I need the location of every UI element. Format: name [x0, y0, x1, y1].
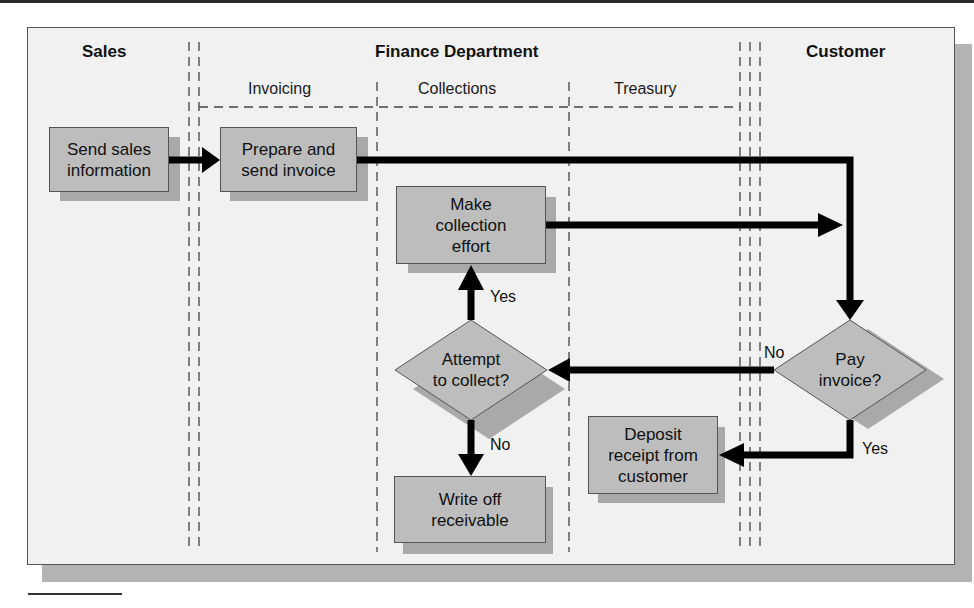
edge-label-pay-no: No — [764, 344, 784, 362]
footer-rule — [28, 593, 122, 595]
flow-graphics — [0, 0, 974, 608]
edge-label-pay-yes: Yes — [862, 440, 888, 458]
arrowhead — [458, 454, 484, 476]
decision-label-pay-invoice: Pay invoice? — [790, 345, 910, 395]
arrowhead — [548, 358, 570, 382]
edge-label-attempt-no: No — [490, 436, 510, 454]
arrowhead — [818, 213, 843, 237]
edge-label-attempt-yes: Yes — [490, 288, 516, 306]
arrowhead — [719, 443, 744, 467]
arrowhead — [836, 300, 864, 320]
arrowhead — [458, 265, 484, 290]
decision-label-attempt-to-collect: Attempt to collect? — [411, 345, 531, 395]
arrowhead — [202, 147, 220, 173]
